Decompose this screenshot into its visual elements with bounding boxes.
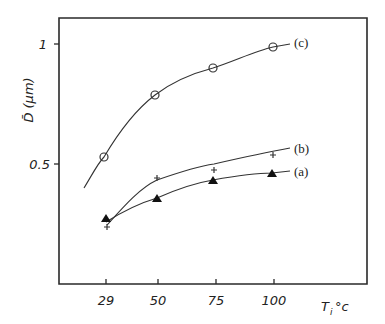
series-b-markers <box>104 152 276 230</box>
plus-marker-icon <box>270 152 276 158</box>
y-axis-label: D̄ (μm) <box>21 77 36 122</box>
y-tick-label-1: 1 <box>39 37 47 52</box>
x-tick-label-29: 29 <box>98 293 115 308</box>
series-a-markers <box>101 169 277 222</box>
series-b-label: (b) <box>294 141 309 156</box>
triangle-marker-icon <box>152 194 162 202</box>
y-tick-label-0-5: 0.5 <box>29 157 50 172</box>
series-c-curve <box>84 44 290 188</box>
series-c-markers <box>100 43 277 161</box>
x-tick-label-50: 50 <box>150 293 167 308</box>
x-tick-label-75: 75 <box>208 293 225 308</box>
triangle-marker-icon <box>101 214 111 222</box>
x-axis-label-unit: °c <box>335 299 349 314</box>
x-axis-label-sub: i <box>330 307 333 317</box>
plus-marker-icon <box>154 175 160 181</box>
series-b-curve <box>107 148 290 225</box>
plot-frame <box>59 18 367 284</box>
series-a-label: (a) <box>294 164 308 179</box>
triangle-marker-icon <box>208 176 218 184</box>
line-chart: 1 0.5 29 50 75 100 T i °c D̄ (μm) (c) (b… <box>0 0 385 324</box>
plus-marker-icon <box>104 224 110 230</box>
x-axis-label: T i °c <box>321 299 349 317</box>
x-axis-label-T: T <box>321 299 330 314</box>
plus-marker-icon <box>211 167 217 173</box>
series-c-label: (c) <box>294 35 308 50</box>
x-tick-label-100: 100 <box>262 293 287 308</box>
